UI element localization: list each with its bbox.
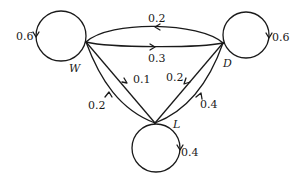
self-loop-d: 0.6 xyxy=(223,12,290,58)
label-d-to-l: 0.2 xyxy=(166,71,184,84)
node-label-d: D xyxy=(222,57,232,70)
self-loop-w: 0.6 xyxy=(16,11,86,61)
edge-w-to-d: 0.3 xyxy=(86,42,223,65)
node-point-l xyxy=(154,122,156,124)
label-loop-l: 0.4 xyxy=(181,146,199,159)
node-point-w xyxy=(85,41,87,43)
label-w-to-l: 0.1 xyxy=(133,73,151,86)
label-loop-d: 0.6 xyxy=(272,31,290,44)
label-l-to-w: 0.2 xyxy=(88,99,106,112)
node-label-w: W xyxy=(69,62,82,75)
edge-d-to-w: 0.2 xyxy=(86,12,223,43)
label-loop-w: 0.6 xyxy=(16,30,34,43)
arrow-icon xyxy=(122,78,127,83)
label-l-to-d: 0.4 xyxy=(200,98,218,111)
label-w-to-d: 0.3 xyxy=(148,52,166,65)
node-label-l: L xyxy=(172,118,180,131)
markov-state-diagram: 0.6 W 0.6 D 0.4 L 0.2 0.3 0.1 0.2 xyxy=(0,0,305,183)
arrow-icon xyxy=(105,92,112,97)
self-loop-l: 0.4 xyxy=(132,124,199,172)
label-d-to-w: 0.2 xyxy=(148,12,166,25)
node-point-d xyxy=(222,42,224,44)
